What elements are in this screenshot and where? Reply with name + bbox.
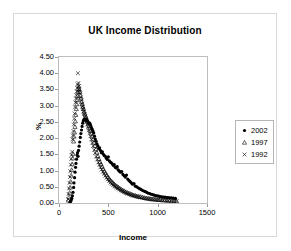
y-tick-mark bbox=[55, 138, 58, 139]
y-tick-label: 3.50 bbox=[20, 85, 54, 93]
y-tick-mark bbox=[55, 171, 58, 172]
y-tick-mark bbox=[55, 57, 58, 58]
chart-legend: 200219971992 bbox=[235, 120, 274, 164]
plot-wrapper: % 0.000.501.001.502.002.503.003.504.004.… bbox=[58, 56, 208, 204]
cross-icon bbox=[239, 149, 250, 159]
chart-title: UK Income Distribution bbox=[14, 25, 276, 36]
x-tick-mark bbox=[59, 204, 60, 207]
y-tick-label: 0.00 bbox=[20, 199, 54, 207]
filled-circle-icon bbox=[239, 125, 250, 135]
y-tick-label: 0.50 bbox=[20, 183, 54, 191]
y-tick-mark bbox=[55, 89, 58, 90]
x-tick-label: 1500 bbox=[192, 209, 222, 217]
x-tick-mark bbox=[158, 204, 159, 207]
x-axis-title: Income bbox=[58, 233, 208, 242]
x-tick-label: 500 bbox=[93, 209, 123, 217]
series-1997 bbox=[66, 84, 178, 203]
x-tick-mark bbox=[108, 204, 109, 207]
y-tick-mark bbox=[55, 122, 58, 123]
legend-item-2002[interactable]: 2002 bbox=[239, 124, 268, 136]
legend-item-1997[interactable]: 1997 bbox=[239, 136, 268, 148]
triangle-icon bbox=[239, 137, 250, 147]
legend-item-1992[interactable]: 1992 bbox=[239, 148, 268, 160]
y-tick-label: 3.00 bbox=[20, 102, 54, 110]
y-tick-mark bbox=[55, 203, 58, 204]
x-tick-label: 0 bbox=[44, 209, 74, 217]
y-tick-mark bbox=[55, 154, 58, 155]
x-tick-label: 1000 bbox=[143, 209, 173, 217]
legend-label: 1997 bbox=[250, 138, 268, 147]
y-tick-label: 1.00 bbox=[20, 167, 54, 175]
y-tick-label: 4.50 bbox=[20, 53, 54, 61]
legend-label: 1992 bbox=[250, 150, 268, 159]
plot-area bbox=[58, 56, 208, 204]
y-tick-mark bbox=[55, 73, 58, 74]
scatter-points-layer bbox=[59, 57, 207, 203]
legend-label: 2002 bbox=[250, 126, 268, 135]
x-tick-mark bbox=[207, 204, 208, 207]
y-tick-mark bbox=[55, 106, 58, 107]
y-tick-mark bbox=[55, 187, 58, 188]
y-tick-label: 2.00 bbox=[20, 134, 54, 142]
y-tick-label: 4.00 bbox=[20, 69, 54, 77]
chart-container: UK Income Distribution % 0.000.501.001.5… bbox=[13, 13, 277, 237]
y-tick-label: 2.50 bbox=[20, 118, 54, 126]
series-1992 bbox=[66, 71, 178, 203]
y-tick-label: 1.50 bbox=[20, 150, 54, 158]
